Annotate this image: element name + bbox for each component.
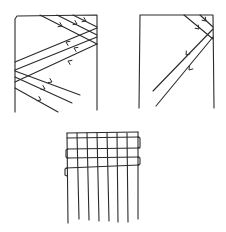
warp-thread — [127, 133, 128, 222]
arrowhead-icon — [68, 60, 72, 64]
arrowhead-icon — [189, 66, 193, 70]
warp-thread — [77, 133, 79, 219]
weaving-diagram — [0, 0, 226, 232]
bottom-woven-grid — [65, 132, 140, 223]
arrowhead-icon — [74, 47, 78, 51]
loom-frame — [139, 15, 214, 108]
right-panel-diagonal-diagram — [139, 15, 214, 108]
thread-line — [153, 29, 213, 91]
thread-line — [15, 37, 97, 70]
warp-thread — [67, 133, 68, 223]
weft-turn — [65, 168, 67, 176]
warp-thread — [87, 133, 89, 220]
thread-line — [15, 44, 97, 82]
thread-line — [15, 88, 58, 112]
arrowhead-icon — [73, 21, 77, 25]
thread-line — [15, 28, 97, 62]
arrowhead-icon — [48, 79, 52, 83]
thread-line — [57, 15, 97, 35]
weft-thread — [66, 165, 139, 168]
warp-thread — [117, 133, 118, 222]
warp-thread — [107, 133, 109, 221]
thread-line — [15, 77, 72, 103]
weft-thread — [67, 137, 139, 138]
weft-thread — [68, 148, 140, 149]
diagram-svg — [0, 0, 226, 232]
left-panel-warp-diagram — [15, 15, 97, 112]
warp-thread — [97, 133, 99, 221]
arrowhead-icon — [66, 41, 70, 45]
thread-line — [156, 37, 213, 106]
